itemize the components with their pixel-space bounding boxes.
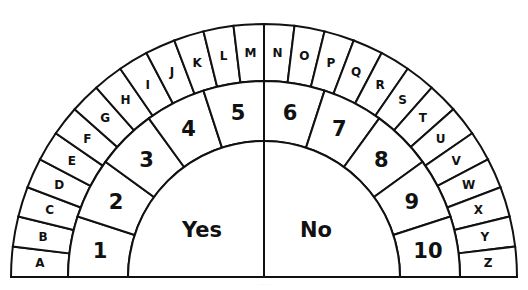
letter-label: X [474,203,484,217]
letter-label: R [376,78,385,92]
footer-caption: · · · · · [0,282,528,287]
number-label: 9 [405,190,420,214]
letter-label: I [146,78,150,92]
letter-label: J [169,65,174,79]
letter-label: E [68,154,76,168]
no-label[interactable]: No [300,218,332,242]
number-label: 8 [374,148,389,172]
letter-label: A [35,256,45,270]
letter-label: U [436,132,446,146]
number-label: 1 [93,239,108,263]
yes-label[interactable]: Yes [181,218,222,242]
letter-label: O [299,49,309,63]
letter-label: V [451,154,461,168]
number-label: 4 [181,117,196,141]
letter-label: K [193,56,203,70]
letter-label: P [326,56,335,70]
letter-label: W [462,178,475,192]
letter-label: Q [351,65,361,79]
letter-label: H [121,93,131,107]
letter-label: G [100,111,110,125]
letter-label: M [244,46,256,60]
letter-label: Y [479,230,489,244]
letter-label: L [220,49,228,63]
number-label: 2 [109,190,124,214]
spirit-board: ABCDEFGHIJKLMNOPQRSTUVWXYZ 12345678910 Y… [0,0,528,290]
letter-label: N [273,46,283,60]
number-label: 5 [231,101,246,125]
letter-label: T [419,111,428,125]
letter-label: S [398,93,407,107]
letter-label: D [54,178,64,192]
number-label: 10 [413,239,442,263]
letter-label: C [45,203,54,217]
letter-label: B [39,230,48,244]
number-label: 7 [332,117,347,141]
letter-label: Z [484,256,493,270]
letter-label: F [83,132,91,146]
number-label: 3 [139,148,154,172]
number-label: 6 [283,101,298,125]
